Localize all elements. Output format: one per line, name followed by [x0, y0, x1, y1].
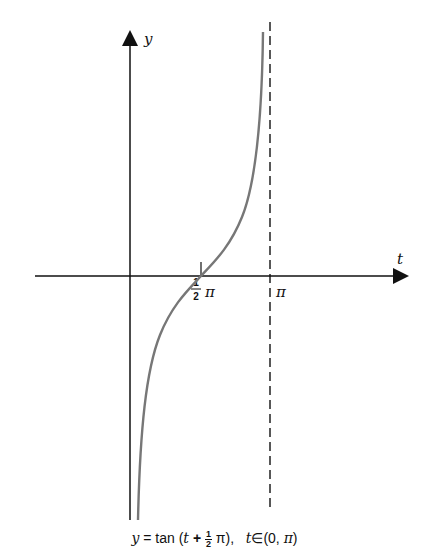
caption-pi1: π), — [212, 530, 238, 546]
caption-eq: = tan ( — [139, 530, 183, 546]
caption-pi2: π — [284, 530, 293, 546]
graph-canvas: y t 1 2 π π — [0, 0, 429, 555]
caption-close: ) — [293, 530, 298, 546]
pi-label: π — [275, 283, 287, 301]
half-pi-symbol: π — [204, 283, 216, 301]
t-axis-label: t — [397, 250, 404, 268]
y-axis-label: y — [143, 30, 153, 48]
y-axis-arrow-icon — [122, 30, 138, 46]
caption-fraction: 12 — [205, 530, 212, 549]
t-axis-arrow-icon — [393, 268, 409, 284]
half-pi-den: 2 — [193, 291, 199, 302]
caption-plus: + — [189, 530, 205, 546]
caption-in: ∈(0, — [251, 530, 283, 546]
caption: y = tan (t + 12 π), t∈(0, π) — [0, 530, 429, 549]
caption-frac-den: 2 — [205, 540, 212, 549]
